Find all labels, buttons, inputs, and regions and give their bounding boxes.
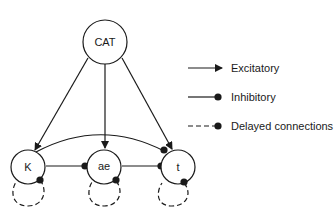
legend-label-excitatory: Excitatory [231, 62, 280, 74]
delayed-dot-icon [214, 122, 221, 129]
delayed-loop-ae [89, 181, 120, 206]
node-cat-label: CAT [94, 36, 115, 48]
delayed-dot-k [36, 176, 43, 183]
inhibitory-dot-k-t [160, 146, 167, 153]
legend-label-inhibitory: Inhibitory [231, 91, 276, 103]
legend-item-inhibitory: Inhibitory [188, 91, 276, 103]
node-t: t [161, 150, 195, 184]
node-cat: CAT [83, 20, 127, 64]
node-t-label: t [176, 161, 179, 173]
edge-cat-to-t [122, 58, 172, 149]
delayed-loop-t [158, 183, 188, 206]
legend: Excitatory Inhibitory Delayed connection… [188, 62, 334, 132]
legend-item-excitatory: Excitatory [188, 62, 280, 74]
delayed-dot-ae [112, 176, 119, 183]
legend-item-delayed: Delayed connections [188, 120, 334, 132]
inhibitory-dot-icon [214, 93, 221, 100]
node-ae-label: ae [98, 160, 110, 172]
edge-k-to-t-inhibitory [36, 135, 164, 152]
node-k-label: K [24, 161, 32, 173]
legend-label-delayed: Delayed connections [231, 120, 334, 132]
network-diagram: CAT K ae t Excitatory Inhibitory Delayed… [0, 0, 334, 220]
delayed-dot-t [180, 178, 187, 185]
